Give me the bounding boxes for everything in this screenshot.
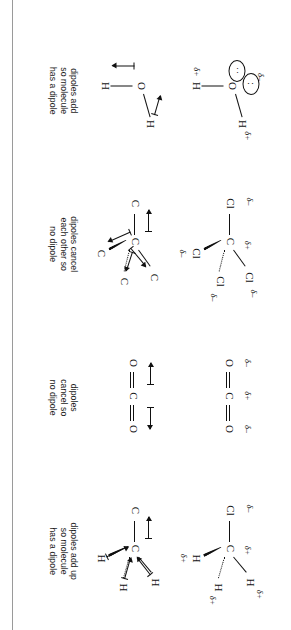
bond-c-h <box>233 556 247 572</box>
oxygen-partial-charge: δ– <box>243 359 251 367</box>
hydrogen-partial-charge: δ+ <box>208 596 216 606</box>
atom-chlorine: C <box>149 274 160 281</box>
atom-carbon: C <box>225 238 236 245</box>
bond-c-h-dashed <box>218 556 225 577</box>
atom-carbon: C <box>224 392 235 399</box>
atom-hydrogen: H <box>145 120 156 128</box>
page-bottom-rule <box>12 0 13 630</box>
atom-hydrogen: H <box>118 584 129 592</box>
bond-c-cl <box>229 214 230 235</box>
hydrogen-partial-charge: δ+ <box>255 590 263 600</box>
dipole-arrow <box>106 546 128 557</box>
water-charge-diagram: : : O δ– H δ+ H δ+ <box>177 14 285 168</box>
atom-chlorine: Cl <box>215 276 226 286</box>
double-bond <box>130 405 134 421</box>
dipole-figure: : : O δ– H δ+ H δ+ O H <box>0 0 291 630</box>
atom-carbon: C <box>128 392 139 399</box>
caption-line: dipoles cancel <box>69 216 79 272</box>
bond-c-cl-dashed <box>219 249 225 271</box>
caption-line: so molecule <box>58 523 68 580</box>
chlorine-partial-charge: δ– <box>209 293 217 301</box>
caption-carbon-dioxide: dipoles cancel so no dipole <box>48 379 79 416</box>
atom-chlorine: Cl <box>244 272 255 282</box>
caption-line: cancel so <box>58 379 68 416</box>
caption-line: dipoles add up <box>69 523 79 580</box>
caption-chloromethane: dipoles add up so molecule has a dipole <box>48 523 79 580</box>
atom-chlorine: C <box>96 250 107 257</box>
atom-chlorine: C <box>119 278 130 285</box>
chlorine-partial-charge: δ– <box>245 197 253 205</box>
double-bond <box>226 372 230 388</box>
hydrogen-partial-charge: δ+ <box>243 131 251 141</box>
caption-tetrachloromethane: dipoles cancel each other so no dipole <box>48 216 79 272</box>
caption-line: dipoles <box>69 379 79 416</box>
atom-oxygen: O <box>128 359 139 367</box>
dipole-arrow <box>150 363 151 385</box>
caption-line: has a dipole <box>48 67 58 115</box>
atom-hydrogen: H <box>237 120 248 128</box>
bond-o-h <box>202 86 224 87</box>
water-arrow-diagram: O H H <box>81 14 177 168</box>
dipole-arrow <box>113 66 135 67</box>
oxygen-partial-charge: δ– <box>243 425 251 433</box>
caption-line: has a dipole <box>48 523 58 580</box>
atom-hydrogen: H <box>245 579 256 587</box>
oxygen-partial-charge: δ– <box>256 73 264 81</box>
atom-chlorine: C <box>130 200 141 207</box>
double-bond <box>226 405 230 421</box>
chlorine-partial-charge: δ– <box>178 249 186 257</box>
carbon-partial-charge: δ+ <box>243 546 251 556</box>
carbon-partial-charge: δ+ <box>243 241 251 251</box>
bond-c-cl <box>134 521 135 542</box>
co2-arrow-diagram: O C O <box>81 321 177 475</box>
bond-c-h-wedge <box>203 545 222 557</box>
atom-hydrogen: H <box>96 555 107 563</box>
caption-water: dipoles add so molecule has a dipole <box>48 67 79 115</box>
dipole-arrow <box>154 96 160 116</box>
dipole-arrow <box>150 407 151 429</box>
bond-c-cl <box>233 249 246 266</box>
atom-carbon: C <box>225 545 236 552</box>
caption-line: so molecule <box>58 67 68 115</box>
atom-chlorine: Cl <box>225 505 236 515</box>
atom-chlorine: Cl <box>191 248 202 258</box>
atom-hydrogen: H <box>100 82 111 90</box>
atom-oxygen: O <box>128 425 139 433</box>
atom-carbon: C <box>130 238 141 245</box>
atom-chlorine: C <box>130 507 141 514</box>
bond-o-h <box>235 94 243 117</box>
double-bond <box>130 372 134 388</box>
bond-o-h <box>143 94 151 117</box>
bond-o-h <box>111 86 133 87</box>
dipole-arrow <box>137 557 151 575</box>
dipole-arrow <box>108 231 130 242</box>
ccl4-charge-diagram: C δ+ Cl δ– Cl δ– Cl δ– Cl δ– <box>177 168 285 322</box>
caption-line: no dipole <box>48 379 58 416</box>
atom-oxygen: O <box>227 82 238 90</box>
column-carbon-dioxide: O δ– C δ+ O δ– O C O <box>0 321 285 475</box>
chlorine-partial-charge: δ– <box>245 504 253 512</box>
column-tetrachloromethane: C δ+ Cl δ– Cl δ– Cl δ– Cl δ– <box>0 168 285 322</box>
column-chloromethane: C δ+ Cl δ– H δ+ H δ+ H δ+ C <box>0 475 285 629</box>
ch3cl-arrow-diagram: C C H H H <box>81 475 177 629</box>
atom-chlorine: Cl <box>225 198 236 208</box>
dipole-arrow <box>148 210 149 232</box>
atom-hydrogen: H <box>213 584 224 592</box>
atom-hydrogen: H <box>150 579 161 587</box>
bond-c-cl-wedge <box>203 238 222 250</box>
atom-oxygen: O <box>136 82 147 90</box>
ccl4-arrow-diagram: C C C C C <box>81 168 177 322</box>
caption-line: no dipole <box>48 216 58 272</box>
ch3cl-charge-diagram: C δ+ Cl δ– H δ+ H δ+ H δ+ <box>177 475 285 629</box>
chlorine-partial-charge: δ– <box>249 289 257 297</box>
caption-line: each other so <box>58 216 68 272</box>
rotated-page: : : O δ– H δ+ H δ+ O H <box>0 0 291 630</box>
bond-c-cl <box>229 521 230 542</box>
atom-hydrogen: H <box>191 555 202 563</box>
hydrogen-partial-charge: δ+ <box>179 554 187 564</box>
atom-hydrogen: H <box>191 82 202 90</box>
column-water: : : O δ– H δ+ H δ+ O H <box>0 14 285 168</box>
dipole-arrow <box>148 517 149 539</box>
hydrogen-partial-charge: δ+ <box>192 67 200 77</box>
carbon-partial-charge: δ+ <box>243 391 251 401</box>
